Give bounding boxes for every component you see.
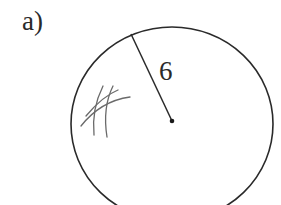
pencil-scribble [81, 86, 130, 137]
circle-diagram: a) 6 [0, 0, 281, 205]
circle-outline [71, 27, 273, 205]
center-point [170, 119, 175, 124]
part-label: a) [22, 8, 43, 35]
radius-label: 6 [159, 58, 173, 85]
